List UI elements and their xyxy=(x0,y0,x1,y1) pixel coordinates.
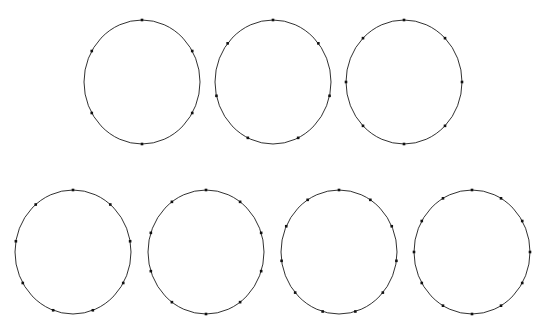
circle-7-point-2 xyxy=(442,197,445,200)
circle-6-point-2 xyxy=(306,199,309,202)
circle-7-point-7 xyxy=(471,313,474,316)
circle-7-point-3 xyxy=(420,220,423,223)
circle-6-point-1 xyxy=(338,189,341,192)
circle-5-point-9 xyxy=(260,232,263,235)
circle-6-point-4 xyxy=(280,260,283,263)
figure-root xyxy=(0,0,555,333)
circle-1-point-3 xyxy=(90,112,93,115)
circle-4-point-4 xyxy=(21,282,24,285)
circle-2-point-4 xyxy=(247,137,250,140)
figure-background xyxy=(0,0,555,333)
circle-2-point-1 xyxy=(272,19,275,22)
circle-3-point-8 xyxy=(444,37,447,40)
circle-5-point-6 xyxy=(205,313,208,316)
circle-4-point-1 xyxy=(72,189,75,192)
circle-3-point-3 xyxy=(345,81,348,84)
circle-1-point-6 xyxy=(191,50,194,53)
circle-7-point-6 xyxy=(442,304,445,307)
circle-4-point-6 xyxy=(92,309,95,312)
circle-3-point-7 xyxy=(461,81,464,84)
circle-3-point-5 xyxy=(403,143,406,146)
circle-6-point-3 xyxy=(285,225,288,228)
circle-6-point-6 xyxy=(321,310,324,313)
circle-5-point-1 xyxy=(205,189,208,192)
circle-3-point-6 xyxy=(444,125,447,128)
circle-5-point-10 xyxy=(239,201,242,204)
circle-5-point-7 xyxy=(239,301,242,304)
circle-6-point-7 xyxy=(354,310,357,313)
circle-5-point-5 xyxy=(171,301,174,304)
circle-5-point-8 xyxy=(260,270,263,273)
circle-7-point-4 xyxy=(413,251,416,254)
circle-6-point-10 xyxy=(390,225,393,228)
circle-2-point-7 xyxy=(317,42,320,45)
circle-2-point-6 xyxy=(328,95,331,98)
circle-3-point-1 xyxy=(403,19,406,22)
circle-6-point-5 xyxy=(294,291,297,294)
circle-2-point-3 xyxy=(215,95,218,98)
circle-4-point-8 xyxy=(129,240,132,243)
circle-5-point-4 xyxy=(150,270,153,273)
circle-6-point-11 xyxy=(369,199,372,202)
circle-6-point-9 xyxy=(395,260,398,263)
circle-7-point-12 xyxy=(500,197,503,200)
circle-4-point-2 xyxy=(34,203,37,206)
circle-5-point-3 xyxy=(150,232,153,235)
circle-7-point-9 xyxy=(521,282,524,285)
circle-5-point-2 xyxy=(171,201,174,204)
circle-4-point-3 xyxy=(15,240,18,243)
circle-7-point-8 xyxy=(500,304,503,307)
circle-1-point-2 xyxy=(90,50,93,53)
circle-1-point-4 xyxy=(141,143,144,146)
circle-7-point-10 xyxy=(529,251,532,254)
circle-1-point-5 xyxy=(191,112,194,115)
circle-7-point-5 xyxy=(420,282,423,285)
circle-3-point-2 xyxy=(362,37,365,40)
circle-4-point-9 xyxy=(109,203,112,206)
circle-6-point-8 xyxy=(382,291,385,294)
circles-figure-canvas xyxy=(0,0,555,333)
circle-4-point-5 xyxy=(52,309,55,312)
circle-7-point-11 xyxy=(521,220,524,223)
circle-2-point-5 xyxy=(297,137,300,140)
circle-4-point-7 xyxy=(122,282,125,285)
circle-1-point-1 xyxy=(141,19,144,22)
circle-2-point-2 xyxy=(226,42,229,45)
circle-3-point-4 xyxy=(362,125,365,128)
circle-7-point-1 xyxy=(471,189,474,192)
